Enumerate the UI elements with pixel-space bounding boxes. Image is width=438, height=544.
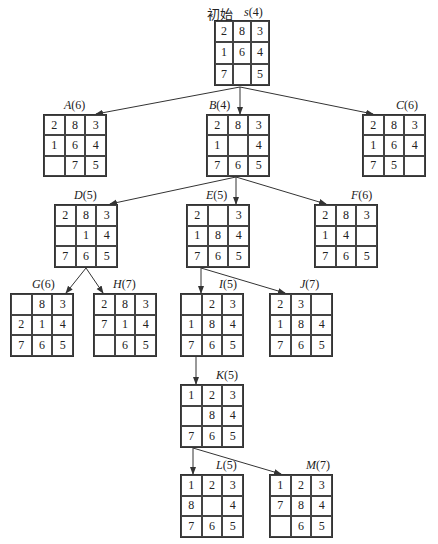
tile: 6 xyxy=(115,335,136,356)
tile: 5 xyxy=(135,335,156,356)
tile: 1 xyxy=(181,475,202,496)
node-id: G xyxy=(32,277,41,291)
tile: 3 xyxy=(96,205,117,226)
tile: 2 xyxy=(11,315,32,336)
tile: 1 xyxy=(207,135,228,155)
tile: 7 xyxy=(315,246,336,267)
tile: 4 xyxy=(96,226,117,247)
puzzle-grid-M: 12378465 xyxy=(269,474,333,538)
node-heuristic: (6) xyxy=(404,98,418,112)
puzzle-grid-I: 23184765 xyxy=(180,293,244,357)
tile: 7 xyxy=(270,496,291,517)
tile: 1 xyxy=(270,315,291,336)
edge-D-H xyxy=(86,268,103,293)
tile: 8 xyxy=(32,294,53,315)
tile: 7 xyxy=(215,64,233,85)
tile: 7 xyxy=(363,156,384,176)
tile: 6 xyxy=(336,246,357,267)
blank-tile xyxy=(11,294,32,315)
tile: 7 xyxy=(270,335,291,356)
tile: 3 xyxy=(222,294,243,315)
tile: 8 xyxy=(233,21,251,42)
tile: 4 xyxy=(311,315,332,336)
tile: 8 xyxy=(291,496,312,517)
tile: 6 xyxy=(228,156,249,176)
tile: 8 xyxy=(228,115,249,135)
tile: 5 xyxy=(222,335,243,356)
node-heuristic: (4) xyxy=(216,98,230,112)
node-id: L xyxy=(216,458,223,472)
tile: 6 xyxy=(208,246,229,267)
edge-B-F xyxy=(236,177,326,204)
tile: 2 xyxy=(215,21,233,42)
tile: 7 xyxy=(55,246,76,267)
tile: 2 xyxy=(187,205,208,226)
tile: 1 xyxy=(270,475,291,496)
tile: 4 xyxy=(311,496,332,517)
tile: 7 xyxy=(181,516,202,537)
tile: 7 xyxy=(11,335,32,356)
tile: 2 xyxy=(55,205,76,226)
node-label-M: M(7) xyxy=(306,458,330,473)
tile: 5 xyxy=(311,335,332,356)
node-id: M xyxy=(306,458,316,472)
tile: 2 xyxy=(207,115,228,135)
tile: 7 xyxy=(181,426,202,447)
tile: 2 xyxy=(202,385,223,406)
puzzle-grid-L: 12384765 xyxy=(180,474,244,538)
tile: 4 xyxy=(248,135,269,155)
tile: 3 xyxy=(135,294,156,315)
blank-tile xyxy=(233,64,251,85)
puzzle-grid-J: 23184765 xyxy=(269,293,333,357)
tile: 4 xyxy=(135,315,156,336)
tile: 6 xyxy=(233,42,251,63)
tile: 7 xyxy=(187,246,208,267)
tile: 1 xyxy=(32,315,53,336)
node-heuristic: (4) xyxy=(249,5,263,19)
tile: 6 xyxy=(202,516,223,537)
blank-tile xyxy=(44,156,65,176)
tile: 2 xyxy=(202,475,223,496)
blank-tile xyxy=(356,226,377,247)
node-label-F: F(6) xyxy=(351,188,372,203)
node-heuristic: (5) xyxy=(223,458,237,472)
node-heuristic: (6) xyxy=(358,188,372,202)
tile: 3 xyxy=(222,385,243,406)
tile: 4 xyxy=(251,42,269,63)
blank-tile xyxy=(181,294,202,315)
node-label-G: G(6) xyxy=(32,277,55,292)
tile: 8 xyxy=(181,496,202,517)
tile: 4 xyxy=(336,226,357,247)
tile: 2 xyxy=(363,115,384,135)
tile: 1 xyxy=(363,135,384,155)
tile: 6 xyxy=(291,335,312,356)
node-label-D: D(5) xyxy=(74,188,97,203)
tile: 6 xyxy=(291,516,312,537)
tile: 3 xyxy=(85,115,106,135)
node-label-H: H(7) xyxy=(113,277,136,292)
node-id: K xyxy=(216,368,224,382)
node-id: D xyxy=(74,188,83,202)
blank-tile xyxy=(208,205,229,226)
tile: 1 xyxy=(44,135,65,155)
tile: 5 xyxy=(222,516,243,537)
tile: 7 xyxy=(181,335,202,356)
tile: 6 xyxy=(202,426,223,447)
node-id: C xyxy=(396,98,404,112)
tile: 8 xyxy=(202,315,223,336)
tile: 1 xyxy=(76,226,97,247)
tile: 3 xyxy=(404,115,425,135)
tile: 5 xyxy=(384,156,405,176)
tile: 7 xyxy=(65,156,86,176)
blank-tile xyxy=(228,135,249,155)
tile: 8 xyxy=(115,294,136,315)
tile: 3 xyxy=(356,205,377,226)
tile: 2 xyxy=(94,294,115,315)
node-label-B: B(4) xyxy=(209,98,230,113)
tile: 6 xyxy=(32,335,53,356)
node-heuristic: (7) xyxy=(305,277,319,291)
edge-K-M xyxy=(193,448,281,474)
tile: 7 xyxy=(207,156,228,176)
tile: 4 xyxy=(52,315,73,336)
edge-D-G xyxy=(66,268,86,293)
